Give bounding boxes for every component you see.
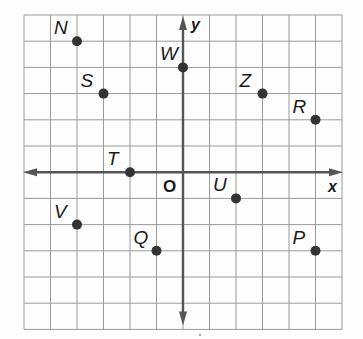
stray-mark bbox=[199, 334, 201, 336]
point-label: R bbox=[293, 96, 307, 117]
point-R: R bbox=[293, 96, 321, 125]
coordinate-plane: x y O NSWZRTUVQP bbox=[0, 0, 363, 339]
point-dot bbox=[178, 62, 188, 72]
point-dot bbox=[72, 220, 82, 230]
point-P: P bbox=[293, 227, 321, 256]
point-label: S bbox=[81, 70, 94, 91]
point-dot bbox=[152, 246, 162, 256]
point-label: N bbox=[54, 17, 68, 38]
point-label: W bbox=[160, 43, 180, 64]
point-label: Q bbox=[134, 227, 149, 248]
point-dot bbox=[72, 36, 82, 46]
point-dot bbox=[125, 167, 135, 177]
point-dot bbox=[311, 115, 321, 125]
point-dot bbox=[311, 246, 321, 256]
y-axis-label: y bbox=[190, 16, 201, 33]
point-label: U bbox=[213, 174, 227, 195]
x-axis-label: x bbox=[327, 178, 338, 195]
point-label: P bbox=[293, 227, 306, 248]
x-axis-right-arrow-icon bbox=[329, 168, 343, 176]
point-label: T bbox=[107, 148, 120, 169]
x-axis-left-arrow-icon bbox=[23, 168, 37, 176]
point-Q: Q bbox=[134, 227, 162, 256]
point-label: Z bbox=[239, 70, 253, 91]
point-S: S bbox=[81, 70, 109, 99]
point-Z: Z bbox=[239, 70, 268, 99]
origin-label: O bbox=[163, 177, 176, 196]
point-dot bbox=[99, 89, 109, 99]
point-dot bbox=[231, 193, 241, 203]
point-N: N bbox=[54, 17, 82, 46]
y-axis-down-arrow-icon bbox=[179, 311, 187, 325]
point-V: V bbox=[54, 201, 82, 230]
point-U: U bbox=[213, 174, 241, 203]
point-label: V bbox=[54, 201, 69, 222]
plotted-points: NSWZRTUVQP bbox=[54, 17, 321, 256]
point-dot bbox=[258, 89, 268, 99]
y-axis-up-arrow-icon bbox=[179, 16, 187, 30]
